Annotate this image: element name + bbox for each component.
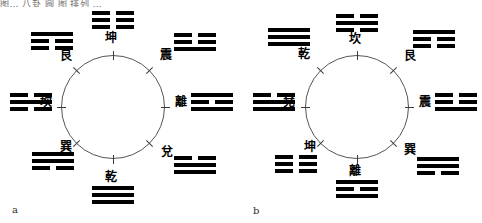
trigram-symbol-xun-a bbox=[32, 152, 74, 170]
figure-caption-b: b bbox=[253, 206, 259, 216]
trigram-label-dui-a: 兌 bbox=[161, 146, 173, 158]
trigram-label-qian-a: 乾 bbox=[105, 171, 117, 183]
tick-mark-qian-a bbox=[113, 155, 114, 164]
figure-caption-a: a bbox=[12, 205, 18, 215]
trigram-label-dui-b: 兌 bbox=[283, 96, 295, 108]
trigram-label-kun-b: 坤 bbox=[304, 141, 316, 153]
tick-mark-li-b bbox=[357, 155, 358, 164]
trigram-label-qian-b: 乾 bbox=[298, 48, 310, 60]
tick-mark-kun-a bbox=[113, 51, 114, 60]
tick-mark-kan-a bbox=[57, 107, 66, 108]
trigram-label-zhen-b: 震 bbox=[419, 96, 431, 108]
figure-page: 图… 八卦 圆 图 排列 … 坤震離兌乾巽坎艮 坎艮震巽離坤兌乾 a b bbox=[0, 0, 482, 223]
trigram-symbol-zhen-b bbox=[435, 93, 477, 111]
trigram-symbol-zhen-a bbox=[174, 33, 216, 51]
trigram-symbol-qian-a bbox=[92, 186, 134, 204]
trigram-label-xun-b: 巽 bbox=[404, 144, 416, 156]
trigram-symbol-kun-a bbox=[92, 11, 134, 29]
trigram-label-li-b: 離 bbox=[349, 165, 361, 177]
trigram-symbol-li-b bbox=[336, 180, 378, 198]
tick-mark-dui-b bbox=[301, 107, 310, 108]
trigram-symbol-kun-b bbox=[275, 155, 317, 173]
trigram-label-gen-b: 艮 bbox=[404, 50, 416, 62]
trigram-label-zhen-a: 震 bbox=[160, 49, 172, 61]
trigram-label-kan-a: 坎 bbox=[40, 96, 52, 108]
trigram-label-kan-b: 坎 bbox=[349, 33, 361, 45]
trigram-symbol-xun-b bbox=[417, 157, 459, 175]
tick-mark-zhen-b bbox=[405, 107, 414, 108]
tick-mark-kan-b bbox=[357, 51, 358, 60]
trigram-symbol-qian-b bbox=[268, 28, 310, 46]
tick-mark-li-a bbox=[161, 107, 170, 108]
trigram-symbol-li-a bbox=[191, 93, 233, 111]
trigram-label-li-a: 離 bbox=[175, 96, 187, 108]
trigram-symbol-kan-b bbox=[336, 14, 378, 32]
bagua-diagram-b: 坎艮震巽離坤兌乾 bbox=[241, 0, 482, 223]
trigram-label-xun-a: 巽 bbox=[60, 141, 72, 153]
trigram-symbol-dui-a bbox=[174, 156, 216, 174]
trigram-symbol-gen-b bbox=[413, 30, 455, 48]
trigram-symbol-gen-a bbox=[31, 32, 73, 50]
bagua-diagram-a: 坤震離兌乾巽坎艮 bbox=[0, 0, 241, 223]
trigram-label-gen-a: 艮 bbox=[60, 50, 72, 62]
trigram-label-kun-a: 坤 bbox=[105, 32, 117, 44]
